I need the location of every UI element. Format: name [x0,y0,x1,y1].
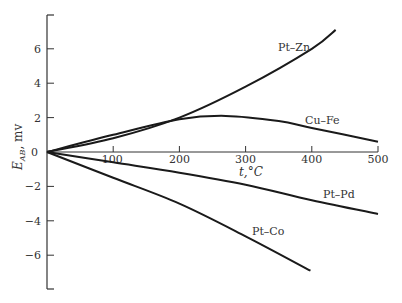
y-tick-label: −2 [25,180,41,193]
x-ticks: 100200300400500 [100,146,388,166]
y-tick-label: 2 [34,112,41,125]
y-axis-label: EAB, mv [11,124,27,171]
x-axis-label: t,°C [239,165,263,179]
y-tick-label: −6 [25,249,41,262]
y-axis-label-unit: , mv [11,124,25,150]
curve-label-pt-co: Pt–Co [252,225,285,238]
x-tick-label: 400 [301,153,322,166]
curve-label-pt-zn: Pt–Zn [278,41,310,54]
y-tick-label: 6 [34,43,41,56]
thermocouple-emf-chart: 642−2−4−6 100200300400500 0 Pt–Zn Cu–Fe … [0,0,402,303]
x-tick-label: 200 [169,153,190,166]
curve-pt-co [47,152,310,271]
y-tick-label: 4 [34,77,41,90]
x-tick-label: 500 [368,153,389,166]
curve-label-pt-pd: Pt–Pd [323,188,355,201]
curve-pt-pd [47,152,378,214]
y-axis-label-sub: AB [18,149,27,162]
y-axis-label-main: E [11,161,25,171]
curves [47,30,378,271]
y-tick-label-zero: 0 [31,146,38,159]
y-tick-label: −4 [25,215,41,228]
curve-label-cu-fe: Cu–Fe [305,114,340,127]
